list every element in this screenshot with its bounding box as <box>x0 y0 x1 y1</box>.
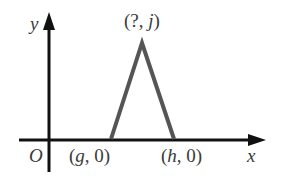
right-vertex-label: (h, 0) <box>161 145 202 167</box>
apex-label: (?, j) <box>124 10 160 32</box>
origin-label: O <box>29 145 43 166</box>
triangle <box>111 43 174 139</box>
y-axis-label: y <box>28 13 39 34</box>
y-axis-arrow-icon <box>43 12 55 30</box>
x-axis-label: x <box>246 145 256 166</box>
left-vertex-label: (g, 0) <box>69 145 110 167</box>
coordinate-diagram: y (?, j) O (g, 0) (h, 0) x <box>0 0 281 181</box>
